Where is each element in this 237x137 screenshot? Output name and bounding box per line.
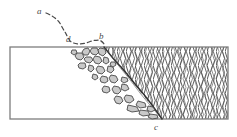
label-c: c [154,123,158,132]
surface-trace-adb [46,13,104,44]
label-b: b [99,32,104,41]
label-a: a [37,7,42,16]
geological-cross-section-figure: a d b c [0,0,237,137]
label-d: d [66,35,71,44]
figure-canvas [0,0,237,137]
foliated-bedrock-region [100,45,232,123]
